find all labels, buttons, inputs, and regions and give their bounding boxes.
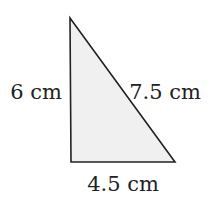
height-label: 6 cm [10,80,62,104]
base-label: 4.5 cm [87,172,159,196]
triangle-diagram: 6 cm 7.5 cm 4.5 cm [0,0,224,200]
hypotenuse-label: 7.5 cm [129,80,201,104]
